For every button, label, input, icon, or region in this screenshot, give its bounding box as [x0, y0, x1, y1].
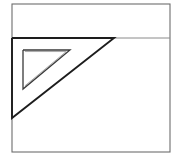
line-drawing-svg: [0, 0, 182, 159]
figure-canvas: Simple black and white line drawing: a r…: [0, 0, 182, 159]
canvas-background: [0, 0, 182, 159]
